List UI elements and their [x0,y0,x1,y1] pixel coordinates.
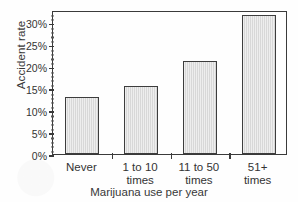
y-minor-tick [51,103,54,104]
y-minor-tick [51,15,54,16]
y-tick-label: 20% [26,62,49,74]
y-tick-mark [49,133,54,134]
y-minor-tick [51,116,54,117]
bar-3 [183,61,217,154]
y-minor-tick [51,76,54,77]
y-tick-label: 15% [26,84,49,96]
bar-4 [242,15,276,154]
y-minor-tick [51,94,54,95]
y-tick-label: 25% [26,40,49,52]
y-tick-label: 5% [32,128,49,140]
bar-1 [65,97,99,154]
y-tick-mark [49,155,54,156]
bar-chart-figure: Accident rate 0%5%10%15%20%25%30% Never1… [0,0,298,202]
x-category-label-4: 51+times [221,161,294,187]
y-tick-25pct: 25% [26,40,53,52]
y-tick-mark [49,111,54,112]
y-tick-label: 10% [26,106,49,118]
y-minor-tick [51,107,54,108]
y-tick-5pct: 5% [32,128,53,140]
y-tick-mark [49,24,54,25]
y-minor-tick [51,125,54,126]
y-minor-tick [51,120,54,121]
y-tick-30pct: 30% [26,18,53,30]
y-minor-tick [51,98,54,99]
y-minor-tick [51,142,54,143]
y-minor-tick [51,63,54,64]
y-minor-tick [51,147,54,148]
y-minor-tick [51,28,54,29]
y-minor-tick [51,81,54,82]
y-minor-tick [51,33,54,34]
y-minor-tick [51,59,54,60]
y-minor-tick [51,54,54,55]
x-category-label-line1: 51+ [248,161,268,173]
y-tick-15pct: 15% [26,84,53,96]
y-axis-title: Accident rate [15,0,27,115]
plot-area: 0%5%10%15%20%25%30% [52,11,287,155]
y-tick-mark [49,68,54,69]
y-minor-tick [51,151,54,152]
y-tick-mark [49,89,54,90]
y-minor-tick [51,50,54,51]
x-tick-mark [171,153,172,159]
x-tick-mark [229,153,230,159]
x-tick-mark [112,153,113,159]
y-minor-tick [51,138,54,139]
y-minor-tick [51,37,54,38]
y-tick-label: 30% [26,18,49,30]
y-minor-tick [51,41,54,42]
x-category-label-line1: Never [66,161,97,173]
y-minor-tick [51,85,54,86]
y-minor-tick [51,72,54,73]
x-category-label-line1: 11 to 50 [179,161,220,173]
y-minor-tick [51,129,54,130]
bar-2 [124,86,158,154]
x-axis-title: Marijuana use per year [0,186,298,198]
y-minor-tick [51,19,54,20]
x-category-label-line1: 1 to 10 [123,161,158,173]
y-tick-mark [49,46,54,47]
y-tick-20pct: 20% [26,62,53,74]
y-tick-10pct: 10% [26,106,53,118]
